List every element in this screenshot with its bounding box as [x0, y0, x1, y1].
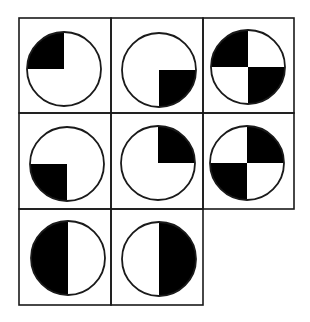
matrix-cell-3-2 [122, 222, 196, 296]
pattern-matrix [0, 0, 310, 322]
cells-layer [27, 30, 285, 296]
matrix-cell-1-1 [27, 32, 101, 106]
matrix-cell-1-2 [122, 33, 196, 107]
matrix-cell-1-3 [211, 30, 285, 104]
matrix-cell-3-1 [31, 221, 105, 295]
matrix-cell-2-3 [210, 126, 284, 200]
matrix-cell-2-1 [30, 127, 104, 201]
matrix-cell-2-2 [121, 126, 195, 200]
